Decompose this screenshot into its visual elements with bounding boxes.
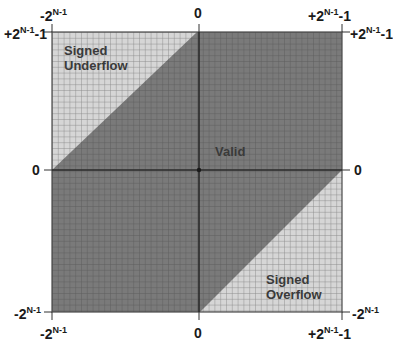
- origin-dot: [197, 168, 201, 172]
- label-right-center: 0: [354, 163, 362, 177]
- underflow-label-line2: Underflow: [64, 58, 128, 73]
- label-right-bottom: -2N-1: [352, 306, 379, 321]
- underflow-label-line1: Signed: [64, 43, 128, 58]
- label-bottom-right: +2N-1-1: [308, 326, 351, 341]
- label-right-top: +2N-1-1: [350, 26, 393, 41]
- underflow-label: Signed Underflow: [64, 43, 128, 73]
- overflow-label-line2: Overflow: [266, 287, 322, 302]
- label-top-right: +2N-1-1: [308, 8, 351, 23]
- label-top-center: 0: [194, 6, 202, 20]
- label-top-left: -2N-1: [40, 8, 67, 23]
- label-bottom-left: -2N-1: [40, 326, 67, 341]
- overflow-label-line1: Signed: [266, 272, 322, 287]
- label-left-center: 0: [32, 163, 40, 177]
- label-left-top: +2N-1-1: [4, 26, 47, 41]
- valid-label: Valid: [215, 144, 245, 159]
- label-left-bottom: -2N-1: [14, 306, 41, 321]
- label-bottom-center: 0: [194, 326, 202, 340]
- overflow-label: Signed Overflow: [266, 272, 322, 302]
